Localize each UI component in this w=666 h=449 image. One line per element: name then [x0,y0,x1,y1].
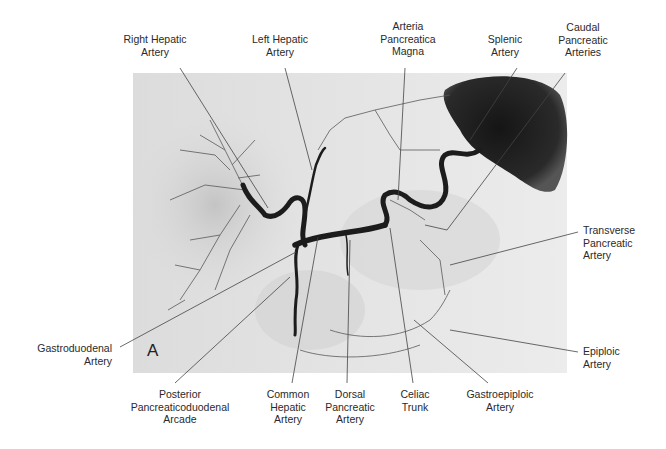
label-celiac-trunk: Celiac Trunk [390,388,440,413]
label-transverse-pancreatic-artery: Transverse Pancreatic Artery [583,224,663,262]
label-gastroduodenal-artery: Gastroduodenal Artery [10,342,112,367]
panel-letter: A [147,341,158,361]
label-dorsal-pancreatic-artery: Dorsal Pancreatic Artery [310,388,390,426]
angiogram-image [0,0,666,449]
label-gastroepiploic-artery: Gastroepiploic Artery [450,388,550,413]
label-arteria-pancreatica-magna: Arteria Pancreatica Magna [363,20,453,58]
label-right-hepatic-artery: Right Hepatic Artery [100,33,210,58]
label-splenic-artery: Splenic Artery [470,33,540,58]
label-caudal-pancreatic-arteries: Caudal Pancreatic Arteries [533,21,633,59]
label-posterior-pancreaticoduodenal-arcade: Posterior Pancreaticoduodenal Arcade [110,388,250,426]
angiogram-figure: A Right Hepatic Artery Left Hepatic Arte… [0,0,666,449]
label-left-hepatic-artery: Left Hepatic Artery [230,33,330,58]
label-epiploic-artery: Epiploic Artery [583,345,663,370]
